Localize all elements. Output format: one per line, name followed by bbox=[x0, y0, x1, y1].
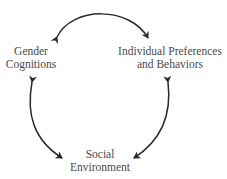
node-gender-line2: Cognitions bbox=[0, 58, 62, 71]
node-individual-line2: and Behaviors bbox=[118, 58, 222, 71]
arrow-gender-social bbox=[30, 82, 62, 158]
node-social-environment: Social Environment bbox=[64, 148, 136, 174]
node-gender-cognitions: Gender Cognitions bbox=[0, 45, 62, 71]
node-social-line1: Social bbox=[64, 148, 136, 161]
arrow-individual-social bbox=[134, 82, 169, 158]
node-individual-preferences: Individual Preferences and Behaviors bbox=[118, 45, 222, 71]
cycle-diagram: Gender Cognitions Individual Preferences… bbox=[0, 0, 227, 179]
arrow-gender-individual bbox=[57, 14, 148, 38]
node-gender-line1: Gender bbox=[0, 45, 62, 58]
node-individual-line1: Individual Preferences bbox=[118, 45, 222, 58]
node-social-line2: Environment bbox=[64, 161, 136, 174]
